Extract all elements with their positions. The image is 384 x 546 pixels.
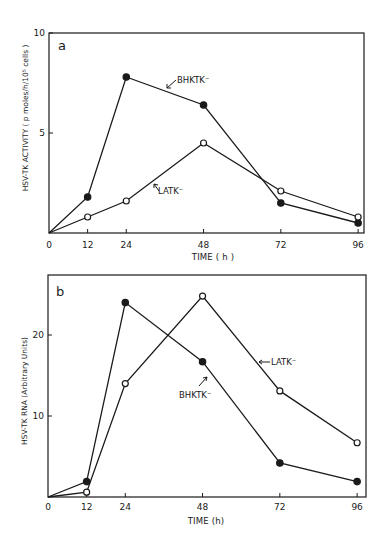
panel-a-y-axis-title: HSV-TK ACTIVITY ( p moles/h/10⁵ cells ) bbox=[21, 45, 30, 192]
panel-b-latk-label: LATK⁻ bbox=[271, 357, 296, 367]
panel-a-x-axis-title: TIME ( h ) bbox=[191, 252, 235, 262]
y-tick-label: 5 bbox=[39, 128, 45, 138]
x-tick-label: 48 bbox=[198, 240, 210, 250]
panel-b-y-ticks: 1020 bbox=[33, 330, 52, 421]
x-tick-label: 96 bbox=[351, 502, 363, 512]
filled-circle-marker-icon bbox=[84, 194, 90, 200]
filled-circle-marker-icon bbox=[83, 478, 89, 484]
open-circle-marker-icon bbox=[123, 198, 129, 204]
panel-a-y-ticks: 510 bbox=[34, 28, 53, 138]
x-tick-label: 48 bbox=[197, 502, 209, 512]
series-line bbox=[49, 143, 358, 233]
open-circle-marker-icon bbox=[354, 440, 360, 446]
open-circle-marker-icon bbox=[85, 214, 91, 220]
x-tick-label: 96 bbox=[352, 240, 364, 250]
panel-b-x-ticks: 01224487296 bbox=[45, 493, 363, 512]
filled-circle-marker-icon bbox=[355, 220, 361, 226]
figure: 01224487296 510 a TIME ( h ) HSV-TK ACTI… bbox=[0, 0, 384, 546]
filled-circle-marker-icon bbox=[200, 102, 206, 108]
x-tick-label: 0 bbox=[46, 240, 52, 250]
panel-a-bhk-arrow-icon bbox=[167, 80, 176, 88]
series-line bbox=[49, 77, 358, 233]
panel-b-frame bbox=[48, 275, 366, 497]
panel-a-letter: a bbox=[58, 38, 66, 53]
x-tick-label: 12 bbox=[82, 240, 93, 250]
filled-circle-marker-icon bbox=[122, 299, 128, 305]
panel-b-bhk-label: BHKTK⁻ bbox=[179, 390, 211, 400]
panel-b-latk-arrow-icon bbox=[259, 360, 270, 364]
filled-circle-marker-icon bbox=[123, 74, 129, 80]
y-tick-label: 20 bbox=[33, 330, 45, 340]
y-tick-label: 10 bbox=[34, 28, 46, 38]
open-circle-marker-icon bbox=[277, 388, 283, 394]
x-tick-label: 72 bbox=[275, 240, 286, 250]
open-circle-marker-icon bbox=[84, 489, 90, 495]
x-tick-label: 24 bbox=[120, 502, 132, 512]
open-circle-marker-icon bbox=[355, 214, 361, 220]
panel-b-y-axis-title: HSV-TK RNA (Arbitrary Units) bbox=[20, 337, 29, 445]
panel-b-x-axis-title: TIME (h) bbox=[187, 516, 225, 526]
open-circle-marker-icon bbox=[122, 381, 128, 387]
panel-b-bhk-arrow-icon bbox=[199, 377, 207, 386]
filled-circle-marker-icon bbox=[278, 200, 284, 206]
x-tick-label: 24 bbox=[121, 240, 133, 250]
filled-circle-marker-icon bbox=[199, 359, 205, 365]
filled-circle-marker-icon bbox=[277, 460, 283, 466]
y-tick-label: 10 bbox=[33, 411, 45, 421]
panel-a-chart: 01224487296 510 a TIME ( h ) HSV-TK ACTI… bbox=[21, 28, 364, 262]
x-tick-label: 12 bbox=[81, 502, 92, 512]
panel-b-letter: b bbox=[56, 284, 64, 299]
panel-a-x-ticks: 01224487296 bbox=[46, 229, 364, 250]
panel-a-latk-label: LATK⁻ bbox=[158, 186, 183, 196]
panel-a-bhk-label: BHKTK⁻ bbox=[177, 75, 209, 85]
x-tick-label: 72 bbox=[274, 502, 285, 512]
open-circle-marker-icon bbox=[201, 140, 207, 146]
filled-circle-marker-icon bbox=[354, 478, 360, 484]
open-circle-marker-icon bbox=[278, 188, 284, 194]
panel-b-chart: 01224487296 1020 b TIME (h) HSV-TK RNA (… bbox=[20, 275, 366, 526]
panel-a-series bbox=[49, 74, 361, 233]
open-circle-marker-icon bbox=[200, 293, 206, 299]
x-tick-label: 0 bbox=[45, 502, 51, 512]
